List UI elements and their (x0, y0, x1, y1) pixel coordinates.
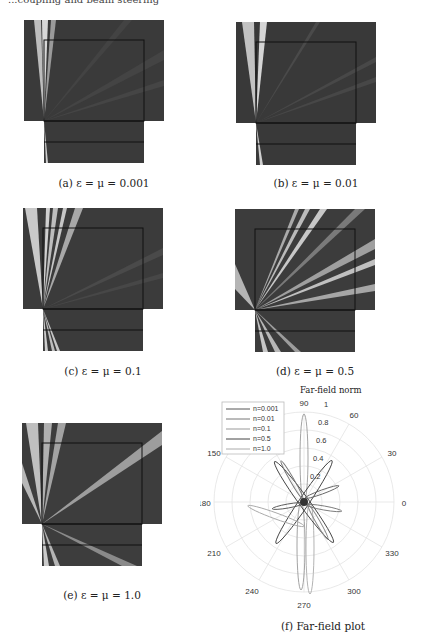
caption-e: (e) ε = μ = 1.0 (42, 589, 162, 601)
caption-label: (a) (58, 177, 72, 189)
legend: n=0.001 n=0.01 n=0.1 n=0.5 n=1.0 (222, 402, 284, 454)
angle-label-60: 60 (350, 411, 359, 420)
field-heatmap-e (22, 423, 182, 573)
radial-label-0.2: 0.2 (310, 472, 320, 481)
caption-text: ε = μ = 0.01 (292, 177, 359, 189)
caption-label: (d) (276, 365, 291, 377)
caption-c: (c) ε = μ = 0.1 (43, 365, 163, 377)
radial-label-0.6: 0.6 (316, 436, 326, 445)
legend-entry: n=0.1 (253, 425, 271, 432)
legend-entry: n=0.5 (253, 435, 271, 442)
angle-label-0: 0 (402, 499, 407, 508)
caption-text: ε = μ = 0.001 (76, 177, 149, 189)
angle-label-90: 90 (300, 399, 309, 408)
radial-label-0.4: 0.4 (313, 454, 323, 463)
angle-label-330: 330 (385, 549, 399, 558)
radial-label-1: 1 (324, 400, 328, 409)
radial-label-0.8: 0.8 (318, 418, 328, 427)
caption-label: (e) (63, 589, 77, 601)
angle-label-210: 210 (207, 549, 221, 558)
running-header: ...coupling and beam steering (8, 0, 159, 5)
polar-title: Far-field norm (300, 385, 362, 395)
angle-label-180: 180 (200, 499, 211, 508)
legend-entry: n=0.001 (253, 405, 279, 412)
legend-entry: n=1.0 (253, 445, 271, 452)
angle-label-240: 240 (245, 587, 259, 596)
caption-text: Far-field plot (296, 620, 365, 632)
field-heatmap-c (23, 208, 183, 358)
angle-label-270: 270 (297, 601, 311, 610)
legend-entry: n=0.01 (253, 415, 275, 422)
angle-label-30: 30 (388, 449, 397, 458)
caption-text: ε = μ = 0.1 (82, 365, 142, 377)
caption-f: (f) Far-field plot (263, 620, 383, 632)
caption-text: ε = μ = 1.0 (81, 589, 141, 601)
caption-a: (a) ε = μ = 0.001 (44, 177, 164, 189)
caption-label: (c) (64, 365, 78, 377)
caption-label: (f) (281, 620, 293, 632)
caption-text: ε = μ = 0.5 (294, 365, 354, 377)
far-field-polar-plot: 90 60 30 0 330 300 270 240 210 180 150 1… (200, 398, 424, 622)
caption-label: (b) (274, 177, 289, 189)
field-heatmap-a (24, 20, 184, 170)
caption-b: (b) ε = μ = 0.01 (256, 177, 376, 189)
angle-label-150: 150 (207, 449, 221, 458)
field-heatmap-b (236, 22, 396, 172)
caption-d: (d) ε = μ = 0.5 (255, 365, 375, 377)
angle-label-300: 300 (347, 587, 361, 596)
field-heatmap-d (235, 209, 395, 359)
